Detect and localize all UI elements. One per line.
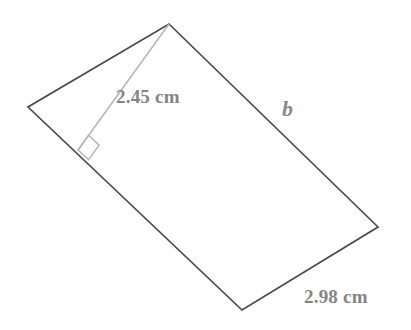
base-label: 2.98 cm (304, 286, 368, 308)
parallelogram-svg (0, 0, 411, 330)
geometry-diagram: 2.45 cm 2.98 cm b (0, 0, 411, 330)
parallelogram-outline (28, 24, 378, 310)
side-b-label: b (282, 96, 293, 122)
height-label: 2.45 cm (116, 86, 180, 108)
